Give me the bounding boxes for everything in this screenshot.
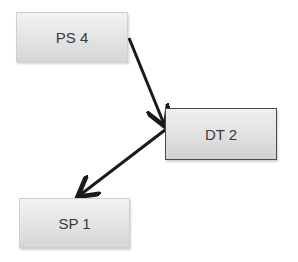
node-dt2-label: DT 2	[205, 126, 237, 143]
edge-ps4-to-dt2	[129, 38, 164, 124]
node-ps4[interactable]: PS 4	[16, 12, 128, 62]
node-sp1-label: SP 1	[58, 215, 90, 232]
node-ps4-label: PS 4	[56, 29, 89, 46]
node-dt2[interactable]: DT 2	[165, 108, 277, 160]
node-sp1[interactable]: SP 1	[19, 198, 130, 248]
edge-dt2-to-sp1	[80, 130, 165, 195]
